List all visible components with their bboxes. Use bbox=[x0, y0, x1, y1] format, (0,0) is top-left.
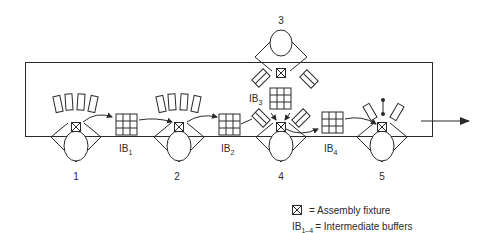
assembly-fixture-icon bbox=[277, 69, 286, 78]
svg-text:3: 3 bbox=[278, 15, 284, 26]
station-3: 3 bbox=[252, 15, 318, 88]
assembly-fixture-icon bbox=[277, 123, 286, 132]
legend-buffers-text: IB1–4= Intermediate buffers bbox=[292, 221, 413, 233]
station-1: 1 bbox=[51, 94, 101, 182]
flow-arrow bbox=[286, 129, 318, 133]
station-2: 2 bbox=[154, 94, 204, 182]
assembly-fixture-icon bbox=[378, 123, 387, 132]
svg-text:IB2: IB2 bbox=[221, 143, 234, 156]
legend: = Assembly fixture IB1–4= Intermediate b… bbox=[292, 205, 413, 233]
svg-text:IB3: IB3 bbox=[249, 93, 262, 106]
station-5: 5 bbox=[357, 98, 407, 182]
flow-arrow bbox=[139, 119, 172, 122]
assembly-fixture-icon bbox=[293, 206, 302, 215]
legend-fixture-text: = Assembly fixture bbox=[309, 205, 391, 216]
buffer-ib2: IB2 bbox=[219, 114, 240, 156]
station-4: 4 bbox=[252, 109, 310, 182]
svg-text:2: 2 bbox=[174, 171, 180, 182]
svg-text:IB4: IB4 bbox=[324, 143, 337, 156]
assembly-fixture-icon bbox=[175, 123, 184, 132]
buffer-ib1: IB1 bbox=[116, 114, 137, 156]
station-label: 1 bbox=[73, 171, 79, 182]
flow-arrow bbox=[83, 115, 112, 122]
svg-text:IB1: IB1 bbox=[119, 143, 132, 156]
svg-text:4: 4 bbox=[278, 171, 284, 182]
svg-text:5: 5 bbox=[379, 171, 385, 182]
buffer-ib4: IB4 bbox=[322, 112, 343, 156]
assembly-line-diagram: 1 IB1 2 IB2 3 IB3 bbox=[0, 0, 489, 233]
buffer-ib3: IB3 bbox=[249, 88, 291, 109]
flow-arrow bbox=[187, 116, 217, 122]
assembly-fixture-icon bbox=[72, 123, 81, 132]
